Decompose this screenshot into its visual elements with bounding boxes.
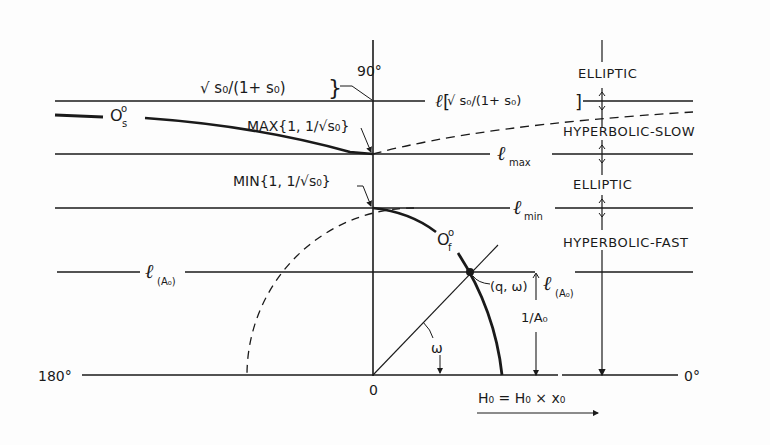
region-hyperbolic-slow: HYPERBOLIC-SLOW [563, 124, 695, 139]
orbit-regime-diagram: 90° 180° 0° 0 ELLIPTIC HYPERBOLIC-SLOW E… [0, 0, 770, 445]
label-inv-A0: 1/A₀ [521, 310, 548, 325]
label-orbit-slow-sup: o [121, 103, 127, 114]
annotation-min: MIN{1, 1/√s₀} [233, 173, 331, 189]
label-orbit-fast-sub: f [448, 242, 452, 253]
label-orbit-slow-sub: s [122, 118, 127, 129]
label-lmax: ℓ [497, 141, 506, 165]
region-hyperbolic-fast: HYPERBOLIC-FAST [563, 235, 688, 250]
annotation-sqrt-brace: } [328, 75, 342, 100]
omega-arc [423, 322, 433, 338]
leader-max [361, 128, 371, 152]
label-lA0-left-sub: (A₀) [157, 276, 176, 287]
label-lA0-right: ℓ [543, 271, 552, 295]
label-omega: ω [431, 340, 443, 356]
leader-sqrt [340, 86, 372, 100]
label-90deg: 90° [357, 63, 382, 79]
annotation-sqrt-top: √ s₀/(1+ s₀) [200, 79, 286, 97]
label-h-vector: H₀ = H₀ × x₀ [478, 390, 566, 406]
label-0deg: 0° [684, 368, 700, 384]
label-l-sqrt-expr: √ s₀/(1+ s₀) [447, 93, 521, 108]
label-lA0-right-sub: (A₀) [555, 288, 574, 299]
label-lmax-sub: max [509, 157, 531, 168]
bracket-r: ] [575, 91, 582, 112]
label-180deg: 180° [38, 368, 72, 384]
label-point-q-omega: (q, ω) [490, 279, 528, 294]
region-elliptic-mid: ELLIPTIC [573, 177, 632, 192]
dashed-circle-arc [247, 208, 414, 375]
orbit-slow-start [55, 115, 103, 117]
label-orbit-fast-sup: o [448, 227, 454, 238]
region-elliptic-top: ELLIPTIC [578, 66, 637, 81]
point-q-omega[interactable] [466, 268, 474, 276]
label-origin: 0 [369, 382, 378, 398]
leader-min [357, 186, 371, 206]
label-lA0-left: ℓ [145, 259, 154, 283]
label-lmin: ℓ [513, 195, 522, 219]
label-lmin-sub: min [524, 211, 543, 222]
annotation-max: MAX{1, 1/√s₀} [247, 118, 349, 134]
bracket-l: [ [443, 91, 450, 112]
label-l-sqrt: ℓ [435, 90, 443, 111]
